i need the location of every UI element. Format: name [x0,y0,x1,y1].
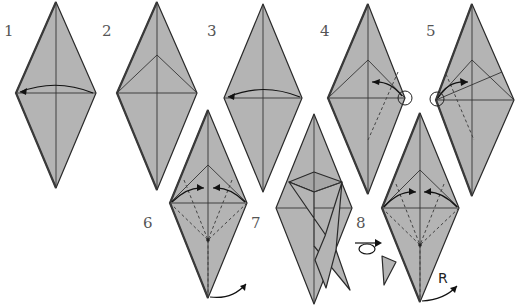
step-2-model [117,2,197,190]
step-number-8: 8 [356,214,366,232]
step-7-model [276,114,352,304]
step-number-3: 3 [207,22,217,40]
turn-over-icon [355,239,382,254]
step-number-1: 1 [4,22,14,40]
step-number-6: 6 [143,214,153,232]
step-number-2: 2 [102,22,112,40]
step-3-model [224,4,302,192]
rotate-label: R [438,270,448,286]
step-6-model [170,110,247,298]
step-4-model [328,4,405,194]
step-number-7: 7 [251,214,261,232]
step-1-model [16,2,96,188]
step-number-4: 4 [320,22,330,40]
step-number-5: 5 [426,22,436,40]
origami-diagram: 1 2 3 4 5 [0,0,516,308]
step-5-model [436,4,514,196]
